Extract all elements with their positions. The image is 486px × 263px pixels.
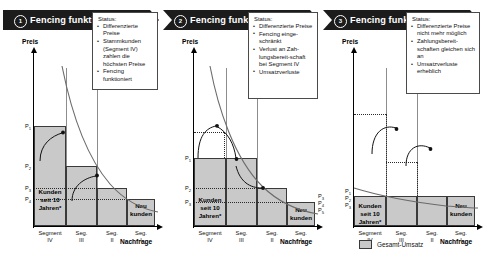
status-list: Differenzierte Preise nicht mehr möglich… [411, 23, 476, 76]
x-category-segment-i: Seg. I [287, 230, 315, 243]
status-item: Differenzierte Preise [97, 23, 154, 38]
panel-fencing-complete: 1 Fencing funktioniert komplett Preis Na… [0, 0, 162, 263]
total-revenue-swatch [359, 240, 372, 249]
willingness-arrow-1 [40, 133, 62, 161]
status-item: Umsatzverluste erheblich [411, 61, 476, 76]
status-item: Verlust an Zah-lungsbereit-schaft bei Se… [253, 46, 314, 68]
banner-step-number: 2 [174, 15, 187, 28]
status-box-panel-3: Status: Differenzierte Preise nicht mehr… [406, 12, 480, 94]
panel-fencing-partial: 2 Fencing funktioniert teilweise Preis N… [160, 0, 322, 263]
x-category-segment-i: Seg. I [447, 230, 475, 243]
status-title: Status: [254, 16, 314, 22]
price-drop-arrow-2 [406, 146, 430, 166]
status-list: Differenzierte Preise Stammkunden (Segme… [97, 23, 154, 83]
x-category-segment-iv: Segment IV [194, 230, 226, 243]
status-item: Fencing einge-schränkt [253, 31, 314, 46]
status-item: Fencing funktioniert [97, 68, 154, 83]
status-item: Zahlungsbereit-schaften gleichen sich an [411, 38, 476, 60]
status-item: Stammkunden (Segment IV) zahlen die höch… [97, 38, 154, 68]
willingness-arrow-1 [198, 126, 216, 158]
banner-step-number: 1 [14, 15, 27, 28]
demand-curve [354, 188, 478, 208]
status-item: Differenzierte Preise nicht mehr möglich [411, 23, 476, 38]
x-category-segment-ii: Seg. II [97, 230, 127, 243]
banner-step-number: 3 [334, 15, 347, 28]
chart-legend: Gesamt-Umsatz [359, 240, 423, 249]
arrow-head-dot [261, 186, 265, 190]
arrow-head-dot [95, 174, 99, 178]
status-item: Differenzierte Preise [253, 23, 314, 30]
status-box-panel-1: Status: Differenzierte Preise Stammkunde… [92, 12, 158, 90]
x-category-segment-iii: Seg. III [226, 230, 257, 243]
arrow-head-dot [61, 131, 65, 135]
status-list: Differenzierte Preise Fencing einge-schr… [253, 23, 314, 76]
arrow-head-dot [235, 157, 239, 161]
x-category-segment-iv: Segment IV [34, 230, 66, 243]
status-item: Umsatzverluste [253, 69, 314, 76]
status-title: Status: [98, 16, 154, 22]
status-box-panel-2: Status: Differenzierte Preise Fencing ei… [248, 12, 318, 99]
x-category-segment-ii: Seg. II [257, 230, 287, 243]
willingness-arrow-2 [72, 176, 96, 201]
panel-fencing-none: 3 Fencing funktioniert nicht Preis Nachf… [320, 0, 482, 263]
legend-label-total-revenue: Gesamt-Umsatz [377, 241, 423, 248]
arrow-head-dot [429, 147, 433, 151]
willingness-arrow-3 [236, 166, 262, 188]
arrow-head-dot [395, 127, 399, 131]
status-title: Status: [412, 16, 476, 22]
x-category-segment-iii: Seg. III [66, 230, 97, 243]
x-category-segment-i: Seg. I [127, 230, 155, 243]
price-drop-arrow-1 [372, 127, 396, 154]
